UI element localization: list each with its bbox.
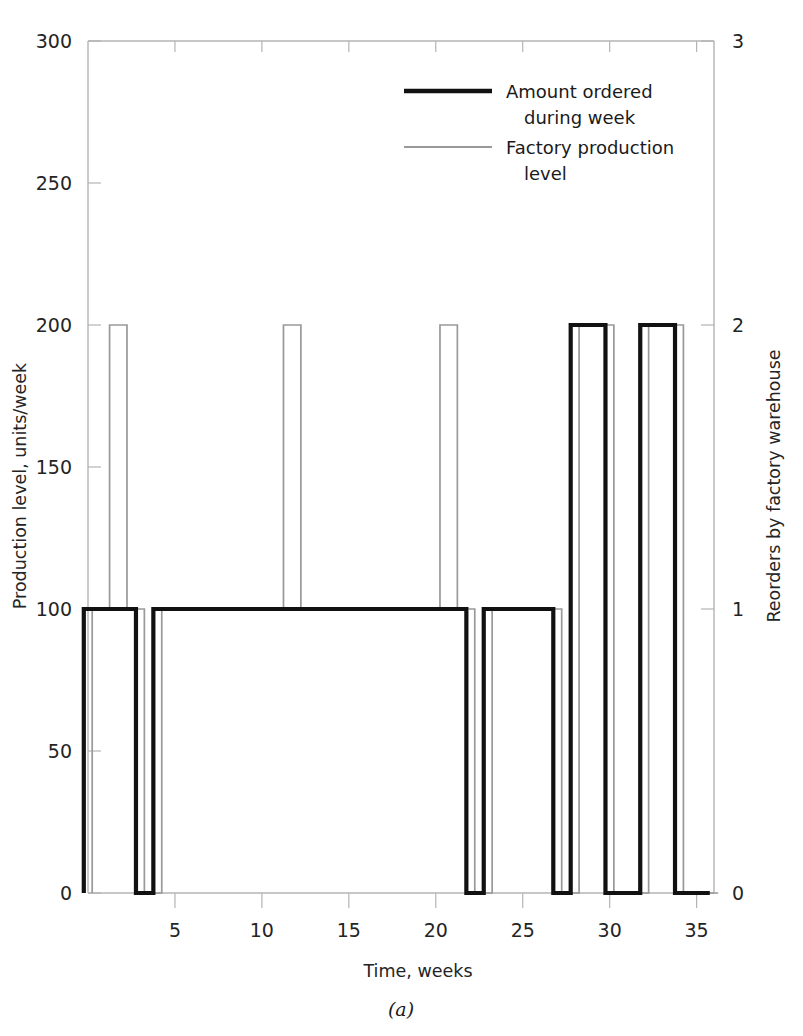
y-tick-label: 150 — [36, 456, 72, 478]
legend-label-ordered-line2: during week — [524, 107, 636, 128]
x-axis-title: Time, weeks — [362, 961, 472, 981]
figure-caption: (a) — [388, 998, 414, 1020]
x-tick-label: 25 — [511, 919, 535, 941]
legend-label-production-line2: level — [524, 163, 567, 184]
y-tick-label: 100 — [36, 598, 72, 620]
x-tick-label: 10 — [250, 919, 274, 941]
x-tick-label: 30 — [598, 919, 622, 941]
y-tick-label: 250 — [36, 172, 72, 194]
x-tick-label: 35 — [685, 919, 709, 941]
y2-tick-label: 2 — [732, 314, 744, 336]
figure-container: 050100150200250300 0123 5101520253035 Pr… — [0, 0, 803, 1036]
x-tick-label: 20 — [424, 919, 448, 941]
y-axis-title: Production level, units/week — [10, 362, 30, 609]
x-tick-label: 15 — [337, 919, 361, 941]
y-tick-label: 0 — [60, 882, 72, 904]
y2-tick-label: 1 — [732, 598, 744, 620]
chart-background — [0, 0, 803, 1036]
y2-tick-label: 0 — [732, 882, 744, 904]
y2-tick-label: 3 — [732, 30, 744, 52]
x-tick-label: 5 — [169, 919, 181, 941]
y2-axis-title: Reorders by factory warehouse — [764, 349, 784, 622]
y-tick-label: 300 — [36, 30, 72, 52]
legend-label-ordered-line1: Amount ordered — [506, 81, 653, 102]
y-tick-label: 200 — [36, 314, 72, 336]
chart-canvas: 050100150200250300 0123 5101520253035 Pr… — [0, 0, 803, 1036]
y-tick-label: 50 — [48, 740, 72, 762]
legend-label-production-line1: Factory production — [506, 137, 674, 158]
